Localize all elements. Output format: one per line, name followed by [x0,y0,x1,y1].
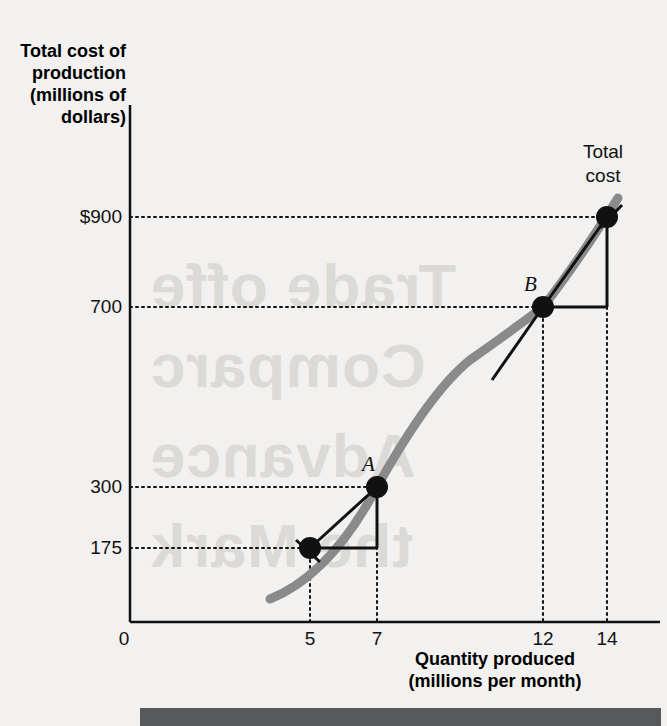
y-axis-title: Total cost of production (millions of do… [8,40,126,128]
figure-canvas: Trade offe Comparc Advance the Mark [0,0,667,726]
x-tick-label-14: 14 [587,628,627,650]
marker-point-a [366,476,388,498]
x-tick-label-5: 5 [290,628,330,650]
origin-label: 0 [104,628,144,650]
y-tick-label-900: $900 [32,206,122,228]
x-axis-title-line-1: Quantity produced [330,648,660,670]
bottom-band [140,708,661,726]
y-axis-title-line-4: dollars) [8,106,126,128]
y-tick-label-300: 300 [32,476,122,498]
marker-upper-right [596,206,618,228]
curve-label-line-2: cost [560,164,646,188]
y-tick-label-700: 700 [32,296,122,318]
curve-label-line-1: Total [560,140,646,164]
y-axis-title-line-1: Total cost of [8,40,126,62]
y-axis-title-line-2: production [8,62,126,84]
marker-lower-left [299,537,321,559]
total-cost-curve-label: Total cost [560,140,646,188]
x-axis-title-line-2: (millions per month) [330,670,660,692]
point-a-label: A [362,452,375,477]
y-tick-label-175: 175 [32,537,122,559]
marker-point-b [532,296,554,318]
x-axis-title: Quantity produced (millions per month) [330,648,660,692]
y-axis-title-line-3: (millions of [8,84,126,106]
x-tick-label-7: 7 [357,628,397,650]
triangle-b [543,217,607,307]
point-b-label: B [524,272,537,297]
triangle-b-secant [543,217,607,307]
x-tick-label-12: 12 [523,628,563,650]
